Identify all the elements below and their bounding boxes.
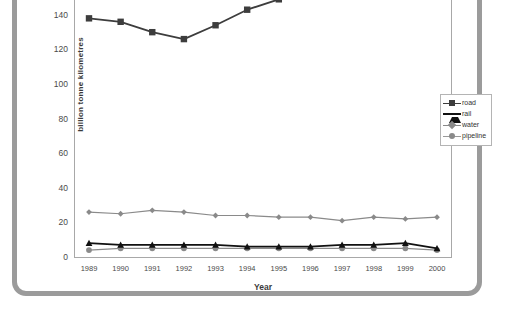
legend-label-water: water [461, 120, 479, 130]
x-tick-label: 1996 [302, 264, 319, 273]
y-tick-label: 60 [59, 148, 69, 158]
data-point-water [149, 207, 155, 213]
series-road [86, 0, 440, 42]
x-tick-label: 1992 [176, 264, 193, 273]
x-tick-label: 1997 [334, 264, 351, 273]
x-tick-label: 2000 [429, 264, 446, 273]
series-water [86, 207, 440, 223]
series-line-road [89, 0, 437, 39]
y-tick-label: 80 [59, 114, 69, 124]
data-point-water [339, 218, 345, 224]
legend-item-rail[interactable]: rail [443, 109, 489, 119]
data-point-road [117, 19, 123, 25]
y-tick-label: 140 [54, 10, 68, 20]
legend-label-road: road [461, 98, 476, 108]
data-point-water [371, 214, 377, 220]
data-point-road [149, 29, 155, 35]
series-line-water [89, 210, 437, 220]
series-rail [86, 240, 441, 251]
data-point-road [276, 0, 282, 3]
x-axis-title: Year [74, 282, 452, 292]
x-tick-label: 1995 [270, 264, 287, 273]
y-tick-label: 20 [59, 217, 69, 227]
x-tick-label: 1993 [207, 264, 224, 273]
series-layer [86, 0, 441, 253]
y-tick-label: 0 [63, 252, 68, 262]
legend-item-pipeline[interactable]: pipeline [443, 131, 489, 141]
chart-figure: 020406080100120140160 198919901991199219… [22, 0, 472, 290]
data-point-pipeline [86, 247, 92, 253]
y-tick-label: 40 [59, 183, 69, 193]
x-tick-label: 1998 [365, 264, 382, 273]
data-point-water [434, 214, 440, 220]
legend-item-water[interactable]: water [443, 120, 489, 130]
data-point-road [212, 22, 218, 28]
x-tick-label: 1994 [239, 264, 256, 273]
legend-marker-triangle-icon [443, 109, 461, 119]
data-point-water [308, 214, 314, 220]
x-tick-label: 1990 [112, 264, 129, 273]
legend-item-road[interactable]: road [443, 98, 489, 108]
data-point-water [118, 211, 124, 217]
data-point-road [86, 15, 92, 21]
data-point-water [276, 214, 282, 220]
y-axis-title: billion tonne kilometres [76, 5, 85, 165]
x-axis-tick-labels: 1989199019911992199319941995199619971998… [81, 264, 446, 273]
data-point-water [86, 209, 92, 215]
legend-marker-diamond-icon [443, 120, 461, 130]
chart-screenshot: 020406080100120140160 198919901991199219… [0, 0, 515, 314]
legend-label-pipeline: pipeline [461, 131, 486, 141]
data-point-pipeline [402, 245, 408, 251]
legend-marker-circle-icon [443, 131, 461, 141]
data-point-water [181, 209, 187, 215]
y-axis-tick-labels: 020406080100120140160 [54, 0, 68, 262]
line-chart-canvas: 020406080100120140160 198919901991199219… [22, 0, 472, 290]
x-tick-label: 1999 [397, 264, 414, 273]
data-point-water [402, 216, 408, 222]
series-line-rail [89, 243, 437, 248]
y-tick-label: 120 [54, 44, 68, 54]
data-point-water [244, 213, 250, 219]
x-tick-label: 1991 [144, 264, 161, 273]
data-point-road [244, 6, 250, 12]
chart-legend: road rail water pipeline [440, 94, 492, 146]
legend-label-rail: rail [461, 109, 471, 119]
data-point-road [181, 36, 187, 42]
x-tick-label: 1989 [81, 264, 98, 273]
y-tick-label: 100 [54, 79, 68, 89]
series-line-pipeline [89, 248, 437, 250]
legend-marker-square-icon [443, 98, 461, 108]
data-point-water [213, 213, 219, 219]
